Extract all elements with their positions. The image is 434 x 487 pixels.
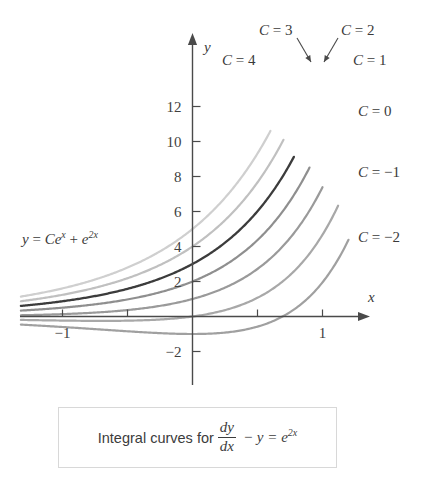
integral-curve [21,187,323,315]
curve-label-cm1: C = −1 [358,164,400,181]
axes-group [20,33,370,385]
curve-label-c2: C = 2 [341,22,374,39]
y-tick-label: 2 [174,274,182,290]
curve-label-c0: C = 0 [358,103,391,120]
integral-curves-figure: 12108642−2−11 y x y = Cex + e2x C = 3 C … [0,0,434,487]
y-axis-arrowhead [188,33,197,45]
fraction-denominator: dx [218,438,236,455]
y-tick-label: 10 [167,134,182,150]
y-tick-label: 8 [174,169,182,185]
caption-tail-text: − y = e2x [243,429,297,446]
curve-label-cm2-value: −2 [384,229,400,245]
curve-label-c2-value: 2 [367,22,375,38]
leader-lines-group [297,38,338,62]
y-tick-label: 6 [174,204,182,220]
curve-label-c3-value: 3 [285,22,293,38]
curve-label-cm2: C = −2 [358,229,400,246]
derivative-fraction: dy dx [218,420,236,455]
y-axis-name: y [204,39,211,56]
curve-label-c1-value: 1 [379,52,387,68]
x-axis-arrowhead [358,312,370,321]
y-tick-label: 12 [167,99,182,115]
integral-curve [21,206,338,321]
curve-label-c0-value: 0 [384,103,392,119]
curve-label-c4: C = 4 [222,52,255,69]
caption-inner: Integral curves for dy dx − y = e2x [98,420,298,455]
fraction-numerator: dy [218,420,236,438]
equation-label: y = Cex + e2x [22,231,98,248]
curve-label-cm1-value: −1 [384,164,400,180]
curve-label-c4-value: 4 [248,52,256,68]
caption-box: Integral curves for dy dx − y = e2x [58,407,337,468]
caption-lead-text: Integral curves for [98,430,214,446]
y-tick-label: 4 [174,239,182,255]
x-tick-label: 1 [319,325,327,341]
y-tick-label: −2 [166,344,182,360]
curve-label-c3: C = 3 [259,22,292,39]
x-axis-name: x [368,289,375,306]
x-tick-label: −1 [55,325,71,341]
curve-label-c1: C = 1 [353,52,386,69]
